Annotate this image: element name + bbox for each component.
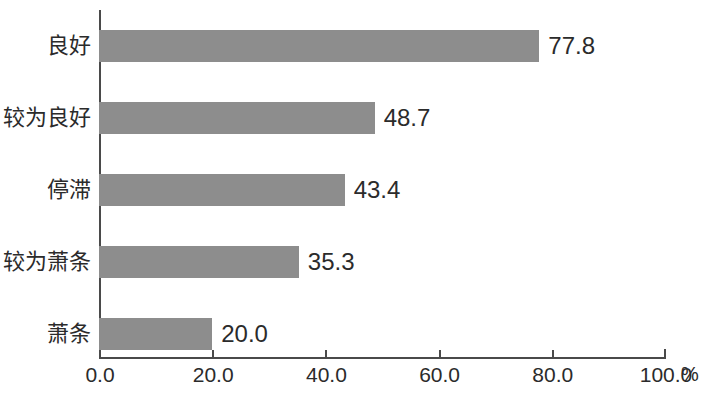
x-axis-tick-label: 80.0 <box>532 364 573 385</box>
x-axis-tick-label: 0.0 <box>85 364 114 385</box>
x-axis-tick <box>552 350 554 359</box>
x-axis-tick-label: 40.0 <box>306 364 347 385</box>
x-axis-tick-label: 20.0 <box>193 364 234 385</box>
category-label: 停滞 <box>47 174 91 206</box>
bar-segment <box>99 30 539 62</box>
x-axis-tick-label: 60.0 <box>419 364 460 385</box>
category-label: 较为良好 <box>3 102 91 134</box>
category-label: 良好 <box>47 30 91 62</box>
bar-value-label: 20.0 <box>212 318 268 350</box>
bar-segment <box>99 246 299 278</box>
bar-value-label: 35.3 <box>299 246 355 278</box>
bar-value-label: 77.8 <box>539 30 595 62</box>
bar-value-label: 48.7 <box>375 102 431 134</box>
category-label: 萧条 <box>47 318 91 350</box>
bar-segment <box>99 318 212 350</box>
x-axis-tick <box>325 350 327 359</box>
x-axis-unit-label: % <box>681 364 699 384</box>
x-axis-tick <box>99 350 101 359</box>
bar-chart: 良好 77.8 较为良好 48.7 停滞 43.4 较为萧条 35.3 萧条 2… <box>0 0 722 404</box>
category-label: 较为萧条 <box>3 246 91 278</box>
bar-segment <box>99 174 345 206</box>
bar-value-label: 43.4 <box>345 174 401 206</box>
bar-segment <box>99 102 375 134</box>
x-axis-tick <box>212 350 214 359</box>
plot-area: 良好 77.8 较为良好 48.7 停滞 43.4 较为萧条 35.3 萧条 2… <box>99 10 665 358</box>
x-axis-tick <box>439 350 441 359</box>
